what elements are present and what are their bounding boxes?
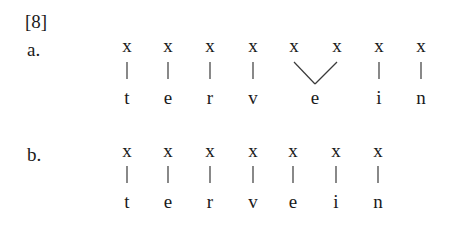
association-lines-b [0,0,455,228]
segment: e [289,192,297,211]
segment: r [207,192,213,211]
segment: e [164,192,172,211]
segment: t [124,192,129,211]
segment: v [248,192,258,211]
segment: i [333,192,338,211]
segment: n [373,192,383,211]
